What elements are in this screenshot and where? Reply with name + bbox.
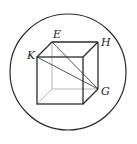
diagonals xyxy=(37,42,98,89)
bounding-circle xyxy=(10,14,126,130)
diagonal-KG xyxy=(37,57,98,89)
label-H: H xyxy=(100,36,111,49)
label-G: G xyxy=(101,85,110,98)
label-E: E xyxy=(52,28,61,41)
label-K: K xyxy=(26,49,36,62)
cube-diagram: E H K G xyxy=(0,0,137,144)
